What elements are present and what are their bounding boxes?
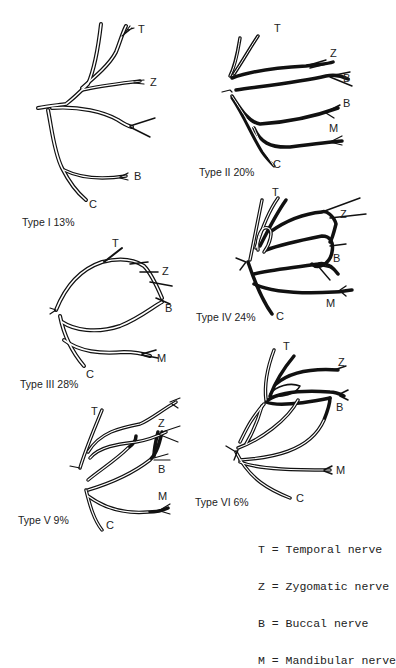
legend: T = Temporal nerve Z = Zygomatic nerve B… [258,519,396,668]
label-t: T [274,22,281,34]
label-m: M [329,122,338,134]
legend-item-temporal: T = Temporal nerve [258,544,396,556]
caption-type-1: Type I 13% [22,216,75,228]
legend-item-zygomatic: Z = Zygomatic nerve [258,581,396,593]
caption-type-3: Type III 28% [20,378,78,390]
label-t: T [272,186,279,198]
label-z: Z [330,47,337,59]
label-z: Z [158,417,165,429]
label-b-lower: B [343,97,350,109]
label-c: C [89,198,97,210]
label-c: C [296,492,304,504]
nerve-branches [50,248,172,366]
label-z: Z [150,76,157,88]
label-z: Z [340,208,347,220]
label-c: C [106,519,114,531]
label-m: M [157,352,166,364]
caption-type-4: Type IV 24% [196,311,256,323]
label-b: B [165,302,172,314]
label-z: Z [162,265,169,277]
label-t: T [138,23,145,35]
label-c: C [273,158,281,170]
label-b: B [158,463,165,475]
panel-type-4: T Z B M C Type IV 24% [196,186,366,323]
label-m: M [336,464,345,476]
label-c: C [86,368,94,380]
label-m: M [326,297,335,309]
legend-item-mandibular: M = Mandibular nerve [258,655,396,667]
nerve-branches [226,350,348,498]
panel-type-2: T Z B B M C Type II 20% [199,22,352,178]
panel-type-1: T Z B C Type I 13% [22,23,157,228]
label-b-upper: B [343,72,350,84]
caption-type-6: Type VI 6% [195,496,249,508]
label-b: B [336,401,343,413]
label-t: T [112,237,119,249]
panel-type-6: T Z B M C Type VI 6% [195,340,348,508]
label-t: T [91,405,98,417]
label-b: B [134,170,141,182]
label-b: B [333,252,340,264]
label-c: C [276,310,284,322]
legend-item-buccal: B = Buccal nerve [258,618,396,630]
caption-type-5: Type V 9% [18,514,69,526]
label-z: Z [338,356,345,368]
caption-type-2: Type II 20% [199,166,254,178]
panel-type-5: T Z B M C Type V 9% [18,398,180,531]
label-t: T [283,340,290,352]
label-m: M [158,490,167,502]
panel-type-3: T Z B M C Type III 28% [20,237,172,390]
